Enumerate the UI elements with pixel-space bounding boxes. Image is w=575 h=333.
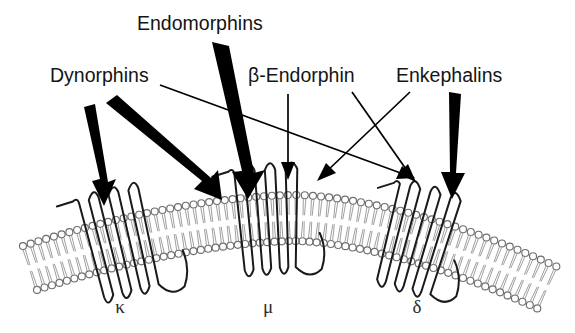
phospholipid-head — [393, 254, 400, 261]
phospholipid-head — [212, 244, 219, 251]
phospholipid-tail — [216, 205, 219, 221]
phospholipid-head — [474, 280, 481, 287]
phospholipid-tail — [318, 222, 319, 238]
phospholipid-head — [530, 253, 537, 260]
phospholipid-tail — [328, 201, 330, 217]
phospholipid-tail — [311, 222, 312, 238]
phospholipid-tail — [305, 199, 306, 215]
label-beta-endorphin: β-Endorphin — [248, 64, 355, 86]
phospholipid-tail — [295, 221, 296, 238]
phospholipid-tail — [226, 204, 228, 220]
phospholipid-head — [522, 249, 529, 256]
phospholipid-head — [56, 279, 63, 286]
phospholipid-head — [309, 192, 316, 199]
phospholipid-head — [27, 240, 34, 247]
phospholipid-head — [342, 243, 349, 250]
phospholipid-head — [175, 204, 182, 211]
arrow-beta-endorphin-to-mu-head — [281, 162, 295, 180]
phospholipid-head — [71, 275, 78, 282]
phospholipid-tail — [235, 225, 236, 241]
phospholipid-head — [271, 238, 278, 245]
phospholipid-head — [198, 200, 205, 207]
phospholipid-head — [78, 273, 85, 280]
phospholipid-head — [220, 243, 227, 250]
phospholipid-head — [553, 263, 560, 270]
phospholipid-tail — [325, 223, 326, 239]
phospholipid-head — [206, 199, 213, 206]
phospholipid-head — [34, 286, 41, 293]
phospholipid-head — [467, 277, 474, 284]
phospholipid-head — [229, 196, 236, 203]
label-kappa-receptor: κ — [115, 296, 125, 317]
phospholipid-head — [63, 277, 70, 284]
phospholipid-head — [342, 196, 349, 203]
phospholipid-head — [364, 247, 371, 254]
phospholipid-tail — [323, 223, 325, 239]
phospholipid-tail — [242, 202, 243, 218]
phospholipid-head — [190, 248, 197, 255]
phospholipid-head — [373, 202, 380, 209]
phospholipid-head — [35, 238, 42, 245]
phospholipid-head — [301, 192, 308, 199]
phospholipid-tail — [311, 199, 312, 215]
phospholipid-tail — [250, 201, 251, 217]
phospholipid-head — [497, 289, 504, 296]
phospholipid-head — [43, 235, 50, 242]
phospholipid-head — [356, 245, 363, 252]
phospholipid-head — [467, 228, 474, 235]
phospholipid-head — [313, 239, 320, 246]
phospholipid-head — [327, 240, 334, 247]
phospholipid-tail — [381, 210, 385, 226]
phospholipid-tail — [289, 221, 290, 238]
phospholipid-head — [97, 220, 104, 227]
phospholipid-head — [460, 226, 467, 233]
delta-receptor — [377, 181, 461, 302]
phospholipid-head — [160, 253, 167, 260]
phospholipid-head — [514, 246, 521, 253]
label-delta-receptor: δ — [413, 296, 422, 317]
label-dynorphins: Dynorphins — [50, 64, 149, 86]
phospholipid-head — [167, 205, 174, 212]
phospholipid-head — [357, 199, 364, 206]
phospholipid-tail — [282, 221, 283, 237]
phospholipid-head — [227, 242, 234, 249]
phospholipid-head — [444, 221, 451, 228]
phospholipid-tail — [301, 221, 302, 237]
phospholipid-head — [86, 271, 93, 278]
phospholipid-tail — [242, 224, 243, 240]
phospholipid-head — [537, 256, 544, 263]
phospholipid-head — [511, 295, 518, 302]
phospholipid-tail — [326, 201, 327, 217]
phospholipid-head — [445, 269, 452, 276]
phospholipid-head — [19, 243, 26, 250]
phospholipid-head — [268, 192, 275, 199]
phospholipid-head — [504, 292, 511, 299]
phospholipid-tail — [131, 220, 135, 236]
phospholipid-tail — [312, 199, 314, 215]
phospholipid-head — [430, 264, 437, 271]
phospholipid-tail — [374, 232, 378, 248]
phospholipid-head — [483, 234, 490, 241]
phospholipid-tail — [229, 226, 232, 242]
phospholipid-head — [491, 237, 498, 244]
phospholipid-head — [285, 238, 292, 245]
arrow-dynorphins-to-kappa-diagonal — [106, 95, 222, 200]
phospholipid-head — [145, 256, 152, 263]
phospholipid-head — [498, 240, 505, 247]
phospholipid-head — [108, 265, 115, 272]
phospholipid-tail — [221, 227, 224, 243]
phospholipid-head — [41, 284, 48, 291]
phospholipid-head — [365, 200, 372, 207]
label-endomorphins: Endomorphins — [137, 12, 263, 34]
phospholipid-tail — [377, 232, 380, 248]
phospholipid-head — [159, 206, 166, 213]
phospholipid-tail — [380, 210, 383, 226]
phospholipid-tail — [274, 222, 275, 238]
arrow-beta-endorphin-to-delta-head — [398, 164, 416, 182]
phospholipid-head — [221, 197, 228, 204]
phospholipid-head — [526, 302, 533, 309]
phospholipid-head — [350, 197, 357, 204]
phospholipid-tail — [224, 204, 227, 220]
phospholipid-head — [306, 238, 313, 245]
phospholipid-head — [136, 211, 143, 218]
